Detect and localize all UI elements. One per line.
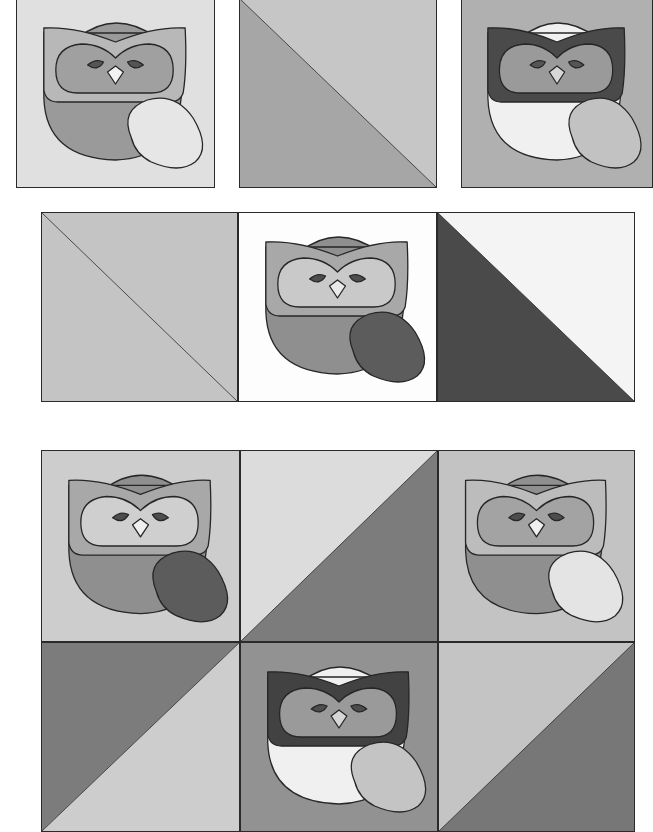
owl-block <box>16 0 215 188</box>
owl-illustration <box>16 0 215 188</box>
triangle-illustration <box>437 212 635 402</box>
half-square-triangle-block <box>240 450 438 642</box>
owl-illustration <box>461 0 653 188</box>
half-square-triangle-block <box>438 642 635 832</box>
owl-block <box>41 450 240 642</box>
owl-illustration <box>438 450 635 642</box>
owl-illustration <box>41 450 240 642</box>
triangle-illustration <box>41 642 240 832</box>
triangle-illustration <box>41 212 238 402</box>
half-square-triangle-block <box>41 212 238 402</box>
owl-block <box>240 642 438 832</box>
half-square-triangle-block <box>41 642 240 832</box>
half-square-triangle-block <box>239 0 437 188</box>
half-square-triangle-block <box>437 212 635 402</box>
owl-block <box>461 0 653 188</box>
owl-illustration <box>240 642 438 832</box>
owl-illustration <box>238 212 437 402</box>
owl-block <box>438 450 635 642</box>
triangle-illustration <box>438 642 635 832</box>
owl-block <box>238 212 437 402</box>
triangle-illustration <box>239 0 437 188</box>
triangle-illustration <box>240 450 438 642</box>
